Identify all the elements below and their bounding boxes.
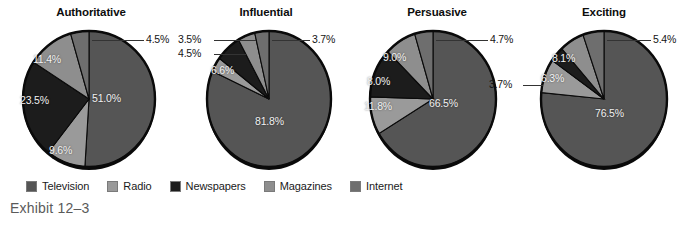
callout-internet: 4.5% xyxy=(146,33,169,45)
slice-label-newspapers: 6.6% xyxy=(211,64,234,76)
slice-label-magazines: 8.0% xyxy=(367,75,390,87)
legend-item-television: Television xyxy=(26,180,89,192)
slice-label-television: 81.8% xyxy=(255,115,284,127)
exhibit-figure: Authoritative 4.5% 51.0% 9.6% 23.5% 11.4… xyxy=(0,0,691,227)
exhibit-caption: Exhibit 12–3 xyxy=(10,200,89,216)
legend-label-radio: Radio xyxy=(123,180,151,192)
legend-item-radio: Radio xyxy=(107,180,151,192)
legend-label-magazines: Magazines xyxy=(280,180,332,192)
chart-legend: Television Radio Newspapers Magazines In… xyxy=(26,178,421,194)
legend-swatch-newspapers-icon xyxy=(170,181,181,192)
chart-title-persuasive: Persuasive xyxy=(352,6,522,18)
pie-svg-exciting xyxy=(519,24,689,172)
chart-title-authoritative: Authoritative xyxy=(6,6,176,18)
pie-chart-authoritative: Authoritative 4.5% 51.0% 9.6% 23.5% 11.4… xyxy=(6,0,176,172)
leader-line-internet xyxy=(436,40,488,41)
chart-title-exciting: Exciting xyxy=(519,6,689,18)
slice-label-radio: 9.0% xyxy=(383,51,406,63)
slice-label-television: 66.5% xyxy=(429,97,458,109)
leader-line-internet xyxy=(272,40,310,41)
slice-label-magazines: 6.3% xyxy=(541,72,564,84)
callout-magazines: 4.5% xyxy=(178,47,201,59)
legend-item-newspapers: Newspapers xyxy=(170,180,246,192)
leader-line-magazines xyxy=(214,54,246,55)
slice-label-television: 76.5% xyxy=(595,107,624,119)
pie-plot-area-authoritative: 4.5% 51.0% 9.6% 23.5% 11.4% xyxy=(6,24,176,172)
legend-swatch-television-icon xyxy=(26,181,37,192)
legend-swatch-magazines-icon xyxy=(264,181,275,192)
pie-plot-area-exciting: 5.4% 3.7% 76.5% 8.1% 6.3% xyxy=(519,24,689,172)
pie-svg-influential xyxy=(181,24,351,172)
slice-label-radio: 9.6% xyxy=(49,144,72,156)
legend-label-newspapers: Newspapers xyxy=(186,180,246,192)
callout-newspapers: 3.7% xyxy=(489,78,512,90)
legend-label-television: Television xyxy=(42,180,89,192)
legend-item-internet: Internet xyxy=(350,180,403,192)
leader-line-newspapers xyxy=(523,85,543,86)
pie-chart-row: Authoritative 4.5% 51.0% 9.6% 23.5% 11.4… xyxy=(0,0,691,172)
slice-label-radio: 8.1% xyxy=(552,52,575,64)
callout-internet: 3.7% xyxy=(312,33,335,45)
pie-plot-area-persuasive: 4.7% 66.5% 9.0% 8.0% 11.8% xyxy=(352,24,522,172)
legend-label-internet: Internet xyxy=(366,180,403,192)
callout-radio: 3.5% xyxy=(178,33,201,45)
pie-chart-exciting: Exciting 5.4% 3.7% 76.5% 8.1% 6.3% xyxy=(519,0,689,172)
chart-title-influential: Influential xyxy=(181,6,351,18)
callout-internet: 5.4% xyxy=(653,33,676,45)
legend-swatch-radio-icon xyxy=(107,181,118,192)
leader-line-radio xyxy=(214,40,256,41)
pie-plot-area-influential: 3.7% 3.5% 4.5% 81.8% 6.6% xyxy=(181,24,351,172)
slice-label-newspapers: 11.8% xyxy=(364,100,392,112)
legend-item-magazines: Magazines xyxy=(264,180,332,192)
leader-line-internet xyxy=(92,40,144,41)
slice-label-newspapers: 23.5% xyxy=(20,94,49,106)
callout-internet: 4.7% xyxy=(490,33,513,45)
pie-chart-influential: Influential 3.7% 3.5% 4.5% 81.8% 6.6% xyxy=(181,0,351,172)
slice-label-television: 51.0% xyxy=(92,92,121,104)
slice-label-magazines: 11.4% xyxy=(33,53,61,65)
leader-line-internet xyxy=(607,40,651,41)
legend-swatch-internet-icon xyxy=(350,181,361,192)
